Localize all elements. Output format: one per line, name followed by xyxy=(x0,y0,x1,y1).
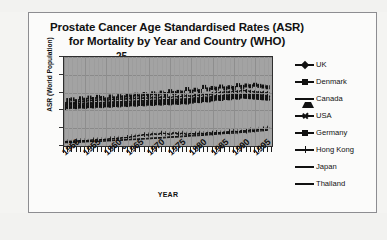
gridline-vertical xyxy=(132,57,133,146)
legend-item-denmark[interactable]: Denmark xyxy=(295,73,375,90)
gridline-vertical xyxy=(166,57,167,146)
legend-marker-square-icon xyxy=(302,79,308,85)
gridline-vertical xyxy=(259,57,260,146)
gridline-vertical xyxy=(200,57,201,146)
gridline-vertical xyxy=(140,57,141,146)
legend-marker-diamond-icon xyxy=(301,60,309,68)
scan-margin-bottom xyxy=(0,213,387,240)
legend-marker-plus-icon xyxy=(302,147,308,153)
gridline-vertical xyxy=(115,57,116,146)
legend-swatch xyxy=(295,59,314,70)
gridline-vertical xyxy=(204,57,205,146)
gridline-vertical xyxy=(94,57,95,146)
gridline-vertical xyxy=(230,57,231,146)
legend-swatch xyxy=(295,178,314,189)
gridline-vertical xyxy=(145,57,146,146)
legend-marker-triangle-icon xyxy=(302,96,314,108)
x-tick-mark xyxy=(271,147,272,152)
y-axis-title: ASR (World Population) xyxy=(46,27,53,123)
gridline-vertical xyxy=(268,57,269,146)
legend-marker-cross-icon xyxy=(302,113,308,119)
gridline-vertical xyxy=(255,57,256,146)
legend-item-canada[interactable]: Canada xyxy=(295,90,375,107)
gridline-horizontal xyxy=(64,75,272,76)
gridline-vertical xyxy=(217,57,218,146)
gridline-vertical xyxy=(123,57,124,146)
gridline-vertical xyxy=(136,57,137,146)
legend-label: Canada xyxy=(316,94,343,103)
gridline-vertical xyxy=(221,57,222,146)
gridline-vertical xyxy=(149,57,150,146)
gridline-vertical xyxy=(162,57,163,146)
legend-swatch xyxy=(295,76,314,87)
gridline-horizontal xyxy=(64,57,272,58)
gridline-vertical xyxy=(187,57,188,146)
legend-line xyxy=(295,183,314,185)
legend-item-usa[interactable]: USA xyxy=(295,107,375,124)
gridline-vertical xyxy=(238,57,239,146)
gridline-vertical xyxy=(183,57,184,146)
legend-label: USA xyxy=(316,111,332,120)
gridline-vertical xyxy=(234,57,235,146)
gridline-vertical xyxy=(128,57,129,146)
legend-label: Thailand xyxy=(316,179,345,188)
legend-label: Japan xyxy=(316,162,337,171)
legend-swatch xyxy=(295,144,314,155)
gridline-vertical xyxy=(225,57,226,146)
legend-line xyxy=(295,166,314,168)
gridline-horizontal xyxy=(64,93,272,94)
legend-swatch xyxy=(295,161,314,172)
gridline-vertical xyxy=(264,57,265,146)
gridline-vertical xyxy=(196,57,197,146)
chart-title: Prostate Cancer Age Standardised Rates (… xyxy=(29,20,325,48)
legend-item-thailand[interactable]: Thailand xyxy=(295,175,375,192)
legend-marker-square-icon xyxy=(302,130,308,136)
chart-legend: UKDenmarkCanadaUSAGermanyHong KongJapanT… xyxy=(295,56,375,192)
data-series-layer xyxy=(64,57,272,146)
gridline-vertical xyxy=(174,57,175,146)
gridline-vertical xyxy=(72,57,73,146)
scan-margin-top xyxy=(0,0,387,12)
gridline-vertical xyxy=(64,57,65,146)
gridline-vertical xyxy=(119,57,120,146)
legend-item-hong-kong[interactable]: Hong Kong xyxy=(295,141,375,158)
gridline-vertical xyxy=(102,57,103,146)
gridline-horizontal xyxy=(64,110,272,111)
gridline-vertical xyxy=(208,57,209,146)
gridline-vertical xyxy=(68,57,69,146)
gridline-vertical xyxy=(81,57,82,146)
gridline-vertical xyxy=(153,57,154,146)
chart-container: Prostate Cancer Age Standardised Rates (… xyxy=(28,12,377,213)
legend-swatch xyxy=(295,93,314,104)
legend-swatch xyxy=(295,110,314,121)
gridline-vertical xyxy=(106,57,107,146)
gridline-vertical xyxy=(191,57,192,146)
gridline-vertical xyxy=(89,57,90,146)
legend-item-japan[interactable]: Japan xyxy=(295,158,375,175)
gridline-vertical xyxy=(272,57,273,146)
plot-area xyxy=(63,56,273,147)
legend-label: Germany xyxy=(316,128,347,137)
gridline-vertical xyxy=(179,57,180,146)
legend-item-germany[interactable]: Germany xyxy=(295,124,375,141)
gridline-vertical xyxy=(77,57,78,146)
gridline-vertical xyxy=(247,57,248,146)
legend-label: UK xyxy=(316,60,327,69)
x-axis-title: YEAR xyxy=(63,191,273,198)
gridline-vertical xyxy=(213,57,214,146)
gridline-horizontal xyxy=(64,128,272,129)
legend-item-uk[interactable]: UK xyxy=(295,56,375,73)
chart-title-line-2: for Mortality by Year and Country (WHO) xyxy=(29,34,325,48)
gridline-vertical xyxy=(111,57,112,146)
legend-swatch xyxy=(295,127,314,138)
gridline-vertical xyxy=(251,57,252,146)
legend-label: Denmark xyxy=(316,77,347,86)
legend-label: Hong Kong xyxy=(316,145,354,154)
gridline-vertical xyxy=(98,57,99,146)
gridline-vertical xyxy=(170,57,171,146)
chart-title-line-1: Prostate Cancer Age Standardised Rates (… xyxy=(29,20,325,34)
gridline-vertical xyxy=(242,57,243,146)
gridline-vertical xyxy=(85,57,86,146)
gridline-vertical xyxy=(157,57,158,146)
